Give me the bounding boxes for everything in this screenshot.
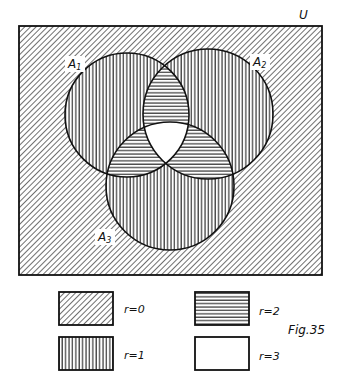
set-label-a3: A3	[95, 229, 115, 245]
figure-caption: Fig.35	[288, 323, 325, 337]
legend-swatch-vertical	[59, 337, 113, 370]
legend-item-r3: r=3	[195, 337, 280, 370]
legend-label: r=2	[259, 305, 280, 318]
set-label-a1: A1	[65, 56, 85, 72]
legend-item-r2: r=2	[195, 292, 280, 325]
legend-label: r=3	[259, 350, 280, 363]
venn-diagram-figure: U A1A2A3 r=0r=1r=2r=3 Fig.35	[0, 0, 339, 386]
universe-label: U	[299, 8, 308, 22]
legend-item-r1: r=1	[59, 337, 145, 370]
legend-swatch-diagonal	[59, 292, 113, 325]
legend-swatch-horizontal	[195, 292, 249, 325]
legend: r=0r=1r=2r=3	[59, 292, 280, 370]
legend-swatch-blank	[195, 337, 249, 370]
legend-item-r0: r=0	[59, 292, 145, 325]
legend-label: r=1	[124, 349, 145, 362]
legend-label: r=0	[124, 303, 145, 316]
set-label-a2: A2	[250, 54, 270, 70]
